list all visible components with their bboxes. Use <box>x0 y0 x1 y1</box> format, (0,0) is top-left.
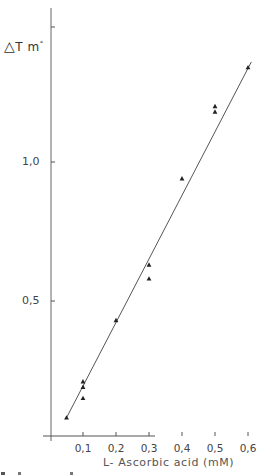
triangle-marker-icon <box>81 379 86 383</box>
y-axis-label: △T m° <box>4 38 44 54</box>
x-tick-label-0.6: 0,6 <box>240 442 257 454</box>
triangle-marker-icon <box>81 385 86 389</box>
x-tick-label-0.2: 0,2 <box>108 442 125 454</box>
regression-line <box>67 62 252 418</box>
x-tick-label-0.4: 0,4 <box>174 442 191 454</box>
y-tick-label-0.5: 0,5 <box>22 294 40 307</box>
scatter-plot <box>0 0 275 475</box>
triangle-marker-icon <box>180 176 185 180</box>
triangle-marker-icon <box>213 109 218 113</box>
y-tick-label-1.0: 1,0 <box>22 155 40 168</box>
x-axis-label: L- Ascorbic acid (mM) <box>103 456 234 469</box>
triangle-marker-icon <box>64 415 69 419</box>
triangle-marker-icon <box>147 276 152 280</box>
x-tick-label-0.5: 0,5 <box>207 442 224 454</box>
x-tick-label-0.3: 0,3 <box>141 442 158 454</box>
cropped-caption-fragment <box>0 471 90 475</box>
x-tick-label-0.1: 0,1 <box>75 442 92 454</box>
delta-triangle-icon: △ <box>4 38 15 54</box>
triangle-marker-icon <box>81 396 86 400</box>
triangle-marker-icon <box>213 104 218 108</box>
